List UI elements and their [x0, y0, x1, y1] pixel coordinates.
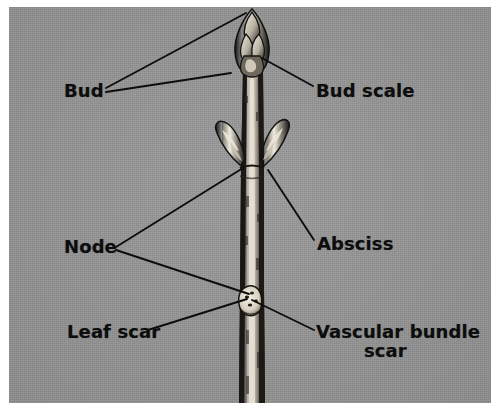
- label-vascular-bundle-scar: Vascular bundle: [316, 321, 480, 342]
- lateral-bud-left: [216, 121, 245, 166]
- label-absciss: Absciss: [317, 233, 394, 254]
- leader-bud-to-lateral-bud: [106, 73, 231, 92]
- leader-bud-scale: [262, 58, 313, 86]
- leader-node-lower: [116, 250, 249, 294]
- label-leaf-scar: Leaf scar: [67, 321, 160, 342]
- label-node: Node: [64, 236, 117, 257]
- figure-page: Bud Bud scale Node Absciss Leaf scar Vas…: [0, 0, 499, 410]
- leader-node-upper: [116, 168, 243, 247]
- terminal-bud: [235, 9, 269, 77]
- leader-bud-to-terminal-bud: [106, 13, 246, 88]
- twig-illustration: [0, 0, 499, 410]
- lateral-bud-right: [260, 120, 289, 166]
- stem: [239, 70, 265, 403]
- label-bud-scale: Bud scale: [316, 80, 415, 101]
- leader-leaf-scar: [148, 299, 247, 330]
- label-bud: Bud: [64, 80, 104, 101]
- leader-absciss: [268, 170, 314, 240]
- label-vascular-bundle-scar-line2: scar: [364, 340, 407, 361]
- leader-lines: [106, 13, 314, 330]
